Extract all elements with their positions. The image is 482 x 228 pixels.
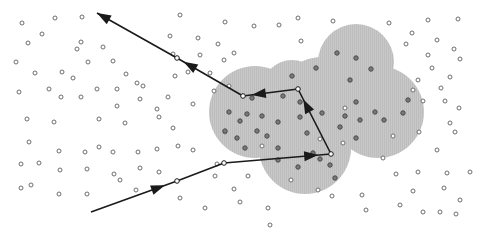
- particle: [86, 60, 90, 64]
- particle: [186, 70, 190, 74]
- particle: [213, 174, 217, 178]
- particle-scatterer: [354, 136, 358, 140]
- particle: [157, 170, 161, 174]
- particle: [411, 88, 415, 92]
- particle: [435, 148, 439, 152]
- particle: [157, 115, 161, 119]
- particle: [178, 13, 182, 17]
- particle: [101, 45, 105, 49]
- particle-scatterer: [296, 165, 300, 169]
- particle: [33, 71, 37, 75]
- particle: [136, 150, 140, 154]
- particle: [191, 102, 195, 106]
- particle: [410, 31, 414, 35]
- particle-scatterer: [358, 118, 362, 122]
- particle: [112, 172, 116, 176]
- particle: [456, 17, 460, 21]
- particle: [268, 223, 272, 227]
- particle: [404, 42, 408, 46]
- particle: [318, 137, 322, 141]
- particle: [155, 147, 159, 151]
- particle: [468, 170, 472, 174]
- particle: [118, 178, 122, 182]
- particle: [171, 126, 175, 130]
- particle: [394, 172, 398, 176]
- particle: [59, 95, 63, 99]
- particle: [341, 141, 345, 145]
- particle-scatterer: [354, 56, 358, 60]
- particle: [438, 210, 442, 214]
- particle-scatterer: [348, 78, 352, 82]
- particle-scatterer: [328, 163, 332, 167]
- particle: [53, 16, 57, 20]
- particle: [85, 192, 89, 196]
- particle: [331, 19, 335, 23]
- particle: [138, 97, 142, 101]
- arrowhead-icon: [150, 185, 165, 194]
- particle: [223, 20, 227, 24]
- particle-scatterer: [298, 115, 302, 119]
- particle: [115, 104, 119, 108]
- particle: [222, 58, 226, 62]
- particle: [79, 95, 83, 99]
- particle: [135, 81, 139, 85]
- particle: [232, 51, 236, 55]
- particle-scatterer: [373, 110, 377, 114]
- particle: [421, 210, 425, 214]
- particle: [435, 38, 439, 42]
- scatter-vertex: [296, 87, 301, 92]
- particle: [277, 23, 281, 27]
- particle-scatterer: [223, 129, 227, 133]
- particle-scatterer: [406, 98, 410, 102]
- particle-scatterer: [281, 94, 285, 98]
- particle: [391, 134, 395, 138]
- particle-scatterer: [298, 100, 302, 104]
- particle: [123, 121, 127, 125]
- particle: [252, 24, 256, 28]
- particle-scatterer: [265, 134, 269, 138]
- particle: [439, 86, 443, 90]
- particle: [75, 47, 79, 51]
- particle: [95, 87, 99, 91]
- scatter-vertex: [241, 94, 246, 99]
- particle: [60, 70, 64, 74]
- particle: [381, 156, 385, 160]
- particle: [14, 60, 18, 64]
- particle: [417, 130, 421, 134]
- diagram-canvas: [0, 0, 482, 228]
- particle-scatterer: [343, 114, 347, 118]
- particle: [343, 106, 347, 110]
- particle: [232, 187, 236, 191]
- particle: [85, 167, 89, 171]
- particle: [19, 162, 23, 166]
- particle: [360, 193, 364, 197]
- particle: [27, 140, 31, 144]
- particle: [398, 203, 402, 207]
- particle-scatterer: [382, 118, 386, 122]
- particle: [457, 106, 461, 110]
- particle: [421, 99, 425, 103]
- particle-scatterer: [335, 51, 339, 55]
- particle: [52, 120, 56, 124]
- arrowhead-icon: [97, 13, 112, 24]
- particle: [266, 206, 270, 210]
- scatter-vertex: [175, 179, 180, 184]
- particle: [79, 40, 83, 44]
- particle: [212, 89, 216, 93]
- particle: [238, 200, 242, 204]
- particle: [20, 21, 24, 25]
- scatter-vertex: [175, 56, 180, 61]
- particle: [168, 34, 172, 38]
- particle: [57, 149, 61, 153]
- particle-scatterer: [290, 74, 294, 78]
- particle: [134, 188, 138, 192]
- particle: [138, 166, 142, 170]
- particle: [330, 194, 334, 198]
- particle: [448, 121, 452, 125]
- particle: [191, 148, 195, 152]
- particle: [296, 16, 300, 20]
- particle: [387, 21, 391, 25]
- cloud-medium: [209, 24, 424, 194]
- particle: [453, 130, 457, 134]
- particle: [155, 107, 159, 111]
